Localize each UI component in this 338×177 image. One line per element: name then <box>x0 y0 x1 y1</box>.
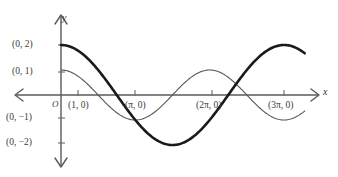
y-axis-label: y <box>62 13 66 23</box>
y-label-2: (0, 2) <box>12 40 33 50</box>
y-axis <box>55 15 67 167</box>
trig-graph-figure: (0, 2) (0, 1) (0, −1) (0, −2) (1, 0) (π,… <box>0 0 338 177</box>
plot-canvas <box>0 0 338 177</box>
x-label-pi: (π, 0) <box>125 101 146 111</box>
x-axis-label: x <box>323 87 327 97</box>
y-label-1: (0, 1) <box>12 67 33 77</box>
y-label-neg2: (0, −2) <box>6 138 32 148</box>
origin-label: O <box>52 100 59 109</box>
x-label-2pi: (2π, 0) <box>196 101 221 111</box>
x-label-1: (1, 0) <box>68 101 89 111</box>
y-label-neg1: (0, −1) <box>6 113 32 123</box>
x-label-3pi: (3π, 0) <box>268 101 293 111</box>
